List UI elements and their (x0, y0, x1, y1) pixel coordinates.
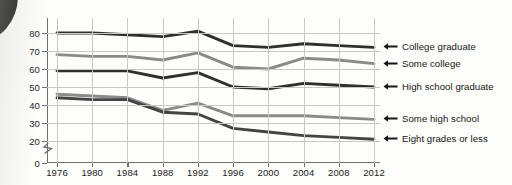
left-arrow-icon (383, 42, 398, 51)
x-axis-label: 1996 (222, 167, 244, 178)
voter-turnout-line-chart: 0203040506070801976198019841988199219962… (0, 0, 512, 185)
series-line (57, 94, 374, 119)
y-axis-label: 40 (29, 100, 40, 111)
plot-area: 0203040506070801976198019841988199219962… (47, 18, 380, 163)
x-axis-label: 1988 (152, 167, 174, 178)
y-axis-label: 20 (29, 136, 40, 147)
left-arrow-icon (383, 59, 398, 68)
series-line (57, 53, 374, 69)
y-axis-tick (42, 87, 47, 88)
gridline-horizontal (47, 141, 380, 142)
gridline-vertical (233, 18, 234, 163)
series-line (57, 98, 374, 139)
y-axis-label: 80 (29, 28, 40, 39)
legend-item: Eight grades or less (383, 133, 488, 144)
y-axis-tick (42, 105, 47, 106)
y-axis-tick (42, 141, 47, 142)
y-axis-tick (42, 69, 47, 70)
chart-legend: College graduateSome collegeHigh school … (383, 0, 512, 185)
gridline-vertical (268, 18, 269, 163)
gridline-vertical (127, 18, 128, 163)
y-axis-label: 70 (29, 46, 40, 57)
x-axis-label: 1984 (117, 167, 139, 178)
gridline-vertical (57, 18, 58, 163)
y-axis-tick (42, 163, 47, 164)
legend-label: Some high school (402, 113, 479, 124)
legend-label: High school graduate (402, 81, 494, 92)
x-axis-label: 1992 (187, 167, 209, 178)
gridline-vertical (374, 18, 375, 163)
gridline-horizontal (47, 33, 380, 34)
y-axis-label: 0 (35, 158, 40, 169)
legend-item: Some high school (383, 113, 479, 124)
x-axis-label: 2008 (328, 167, 350, 178)
left-arrow-icon (383, 134, 398, 143)
gridline-horizontal (47, 105, 380, 106)
legend-item: College graduate (383, 41, 476, 52)
y-axis-label: 30 (29, 118, 40, 129)
legend-label: Some college (402, 58, 461, 69)
x-axis-label: 1980 (81, 167, 103, 178)
y-axis-tick (42, 123, 47, 124)
gridline-vertical (339, 18, 340, 163)
legend-label: Eight grades or less (402, 133, 488, 144)
gridline-horizontal (47, 87, 380, 88)
y-axis-label: 50 (29, 82, 40, 93)
legend-item: Some college (383, 58, 461, 69)
gridline-vertical (163, 18, 164, 163)
x-axis-label: 2012 (363, 167, 385, 178)
left-arrow-icon (383, 82, 398, 91)
x-axis-label: 2004 (293, 167, 315, 178)
y-axis-label: 60 (29, 64, 40, 75)
gridline-vertical (304, 18, 305, 163)
left-arrow-icon (383, 114, 398, 123)
x-axis-label: 2000 (258, 167, 280, 178)
x-axis-label: 1976 (46, 167, 68, 178)
y-axis-tick (42, 33, 47, 34)
y-axis-tick (42, 51, 47, 52)
gridline-horizontal (47, 51, 380, 52)
page-binding-artifact (0, 0, 18, 42)
gridline-horizontal (47, 123, 380, 124)
legend-label: College graduate (402, 41, 476, 52)
gridline-vertical (198, 18, 199, 163)
gridline-vertical (92, 18, 93, 163)
gridline-horizontal (47, 69, 380, 70)
plot-inner: 0203040506070801976198019841988199219962… (47, 18, 380, 163)
legend-item: High school graduate (383, 81, 494, 92)
